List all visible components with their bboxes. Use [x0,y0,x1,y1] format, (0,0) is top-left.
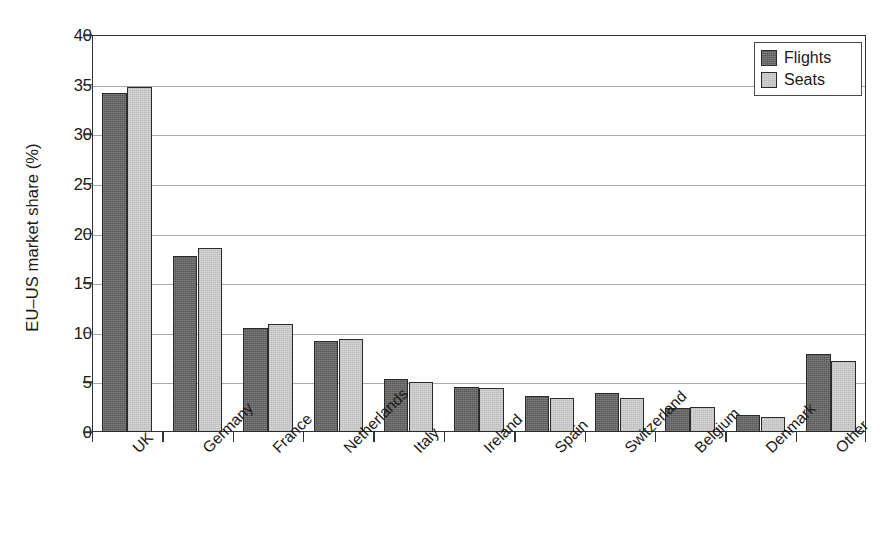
bar-seats-france [268,324,293,432]
x-axis-tick-mark [92,432,93,442]
bar-seats-uk [127,87,152,432]
x-axis-tick-labels: UKGermanyFranceNetherlandsItalyIrelandSp… [92,444,866,533]
bar-flights-ireland [454,387,479,432]
bar-flights-netherlands [314,341,339,432]
y-axis-tick-mark [83,282,92,284]
bar-flights-switzerland [595,393,620,432]
y-axis-tick-mark [83,233,92,235]
y-axis-tick-mark [83,183,92,185]
legend: Flights Seats [754,42,862,96]
x-axis-tick-mark [162,432,163,442]
bar-flights-germany [173,256,198,432]
y-axis-tick-mark [83,34,92,36]
bar-seats-other [831,361,856,432]
bar-chart: EU–US market share (%) 0510152025303540 … [0,0,892,533]
bar-flights-uk [102,93,127,432]
legend-swatch-seats-icon [761,72,777,88]
bar-seats-germany [198,248,223,432]
legend-item-flights: Flights [761,47,861,69]
y-axis-tick-mark [83,84,92,86]
legend-label-seats: Seats [784,72,825,88]
legend-swatch-flights-icon [761,50,777,66]
y-axis-tick-mark [83,382,92,384]
bars-layer [92,35,866,432]
bar-seats-netherlands [339,339,364,432]
legend-label-flights: Flights [784,50,831,66]
y-axis-tick-mark [83,133,92,135]
bar-flights-spain [525,396,550,432]
x-axis-tick-mark [444,432,445,442]
legend-item-seats: Seats [761,69,861,91]
y-axis-tick-mark [83,332,92,334]
y-axis-tick-labels: 0510152025303540 [0,0,92,533]
y-axis-tick-mark [83,431,92,433]
